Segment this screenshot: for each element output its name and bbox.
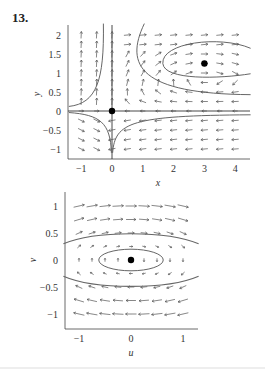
y-tick-label: 1.5 [49, 49, 62, 60]
equilibrium-point [128, 257, 134, 263]
v-tick-label: 0 [53, 255, 58, 266]
equilibrium-point [109, 108, 115, 114]
x-tick-label: 1 [140, 163, 145, 174]
plot-uv: −10110.50−0.5−1uv [27, 192, 199, 358]
y-tick-label: 0.5 [49, 87, 62, 98]
y-tick-label: −1 [50, 144, 61, 155]
y-tick-label: −0.5 [43, 125, 61, 136]
equilibrium-point [201, 60, 207, 66]
x-tick-label: 3 [202, 163, 207, 174]
x-tick-label: −1 [76, 163, 87, 174]
y-tick-label: 1 [56, 68, 61, 79]
u-tick-label: −1 [74, 333, 85, 344]
u-tick-label: 0 [129, 333, 134, 344]
y-tick-label: 2 [56, 30, 61, 41]
v-tick-label: 0.5 [46, 228, 59, 239]
v-axis-label: v [27, 257, 38, 262]
x-tick-label: 4 [233, 163, 238, 174]
x-tick-label: 2 [171, 163, 176, 174]
v-tick-label: 1 [53, 201, 58, 212]
phase-portraits: −10123421.510.50−0.5−1xy−10110.50−0.5−1u… [0, 0, 265, 372]
v-tick-label: −0.5 [40, 282, 58, 293]
x-tick-label: 0 [110, 163, 115, 174]
x-axis-label: x [155, 177, 161, 188]
v-tick-label: −1 [47, 309, 58, 320]
u-axis-label: u [129, 347, 134, 358]
u-tick-label: 1 [181, 333, 186, 344]
y-tick-label: 0 [56, 106, 61, 117]
y-axis-label: y [31, 91, 42, 97]
plot-xy: −10123421.510.50−0.5−1xy [31, 24, 251, 188]
divider [0, 367, 265, 369]
